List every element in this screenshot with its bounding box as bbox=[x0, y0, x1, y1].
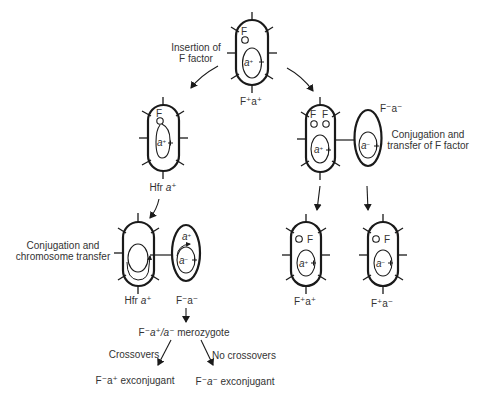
recipient-conj-label: F⁻a⁻ bbox=[176, 295, 198, 306]
arrow-to-progeny-1 bbox=[317, 186, 320, 210]
exconj-minus-suffix: exconjugant bbox=[221, 376, 275, 387]
progeny-1-label: F⁺a⁺ bbox=[294, 296, 316, 307]
exconj-minus-gene: a⁻ bbox=[207, 376, 218, 387]
arrow-to-conjugation bbox=[287, 68, 313, 91]
conjugation-f-label: Conjugation and transfer of F factor bbox=[387, 129, 469, 151]
conj-f-line-2: transfer of F factor bbox=[387, 140, 469, 151]
merozygote-suffix: merozygote bbox=[177, 327, 229, 338]
no-crossovers-label: No crossovers bbox=[212, 350, 276, 361]
hfr-conj-label: Hfr a⁺ bbox=[125, 295, 152, 306]
f-label: F bbox=[156, 108, 162, 119]
hfr-gene: a⁺ bbox=[141, 295, 152, 306]
exconj-minus-prefix: F⁻ bbox=[196, 376, 207, 387]
conj-chrom-line-1: Conjugation and bbox=[16, 240, 110, 251]
merozygote-genes: a⁺/a⁻ bbox=[150, 327, 174, 338]
f-label: F bbox=[241, 26, 247, 37]
insertion-line-1: Insertion of bbox=[171, 42, 220, 53]
recipient-label: F⁻a⁻ bbox=[380, 103, 402, 114]
conj-chrom-line-2: chromosome transfer bbox=[16, 251, 110, 262]
cell-progeny-f-plus-a-plus bbox=[282, 214, 330, 294]
f-label: F bbox=[384, 234, 390, 245]
merozygote-prefix: F⁻ bbox=[139, 327, 150, 338]
cell-recipient-f-minus bbox=[355, 110, 382, 166]
hfr-cell-label: Hfr a⁺ bbox=[150, 182, 177, 193]
diagram-canvas: F a+ F a+ bbox=[0, 0, 482, 405]
f-label: F bbox=[310, 109, 316, 120]
exconjugant-a-plus: F⁻a⁺ exconjugant bbox=[96, 375, 175, 386]
exconj-plus-genotype: F⁻a⁺ bbox=[96, 375, 118, 386]
hfr-prefix: Hfr bbox=[150, 182, 163, 193]
arrow-to-chrom-transfer bbox=[150, 199, 159, 218]
conjugation-chrom-label: Conjugation and chromosome transfer bbox=[16, 240, 110, 262]
conj-f-line-1: Conjugation and bbox=[387, 129, 469, 140]
hfr-prefix: Hfr bbox=[125, 295, 138, 306]
crossovers-label: Crossovers bbox=[109, 349, 160, 360]
cell-hfr-conjugating bbox=[114, 213, 172, 294]
f-label: F bbox=[322, 109, 328, 120]
cell-top-f-plus bbox=[227, 12, 277, 93]
progeny-2-label: F⁺a⁻ bbox=[371, 298, 393, 309]
arrow-crossovers bbox=[158, 340, 171, 365]
top-cell-label: F⁺a⁺ bbox=[240, 96, 262, 107]
merozygote-label: F⁻a⁺/a⁻ merozygote bbox=[139, 327, 230, 338]
insertion-label: Insertion of F factor bbox=[171, 42, 220, 64]
insertion-line-2: F factor bbox=[171, 53, 220, 64]
arrow-to-hfr bbox=[191, 66, 218, 88]
exconjugant-a-minus: F⁻a⁻ exconjugant bbox=[196, 376, 275, 387]
f-label: F bbox=[307, 234, 313, 245]
cell-progeny-f-plus-a-minus bbox=[359, 214, 407, 294]
exconj-plus-suffix: exconjugant bbox=[121, 375, 175, 386]
arrow-to-progeny-2 bbox=[367, 186, 368, 210]
hfr-gene: a⁺ bbox=[166, 182, 177, 193]
